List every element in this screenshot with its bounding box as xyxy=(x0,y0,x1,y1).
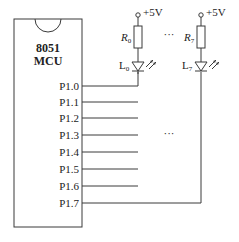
wire-p1-0 xyxy=(82,72,138,86)
led-branch-7: +5V R7 L7 xyxy=(182,6,226,73)
chip-notch-icon xyxy=(35,19,61,32)
led-label: L0 xyxy=(119,59,130,73)
pin-label-p1-3: P1.3 xyxy=(59,129,79,141)
resistor-icon xyxy=(197,26,205,48)
supply-terminal-icon xyxy=(136,13,140,17)
supply-label: +5V xyxy=(143,6,163,18)
led-icon xyxy=(132,62,144,71)
pin-label-p1-6: P1.6 xyxy=(59,180,79,192)
pin-labels: P1.0 P1.1 P1.2 P1.3 P1.4 P1.5 P1.6 P1.7 xyxy=(59,80,79,209)
pin-label-p1-2: P1.2 xyxy=(59,112,79,124)
led-branch-0: +5V R0 L0 xyxy=(119,6,163,74)
resistor-label: R7 xyxy=(183,31,195,45)
pin-label-p1-4: P1.4 xyxy=(59,146,79,158)
circuit-diagram: 8051 MCU P1.0 P1.1 P1.2 P1.3 P1.4 P1.5 P… xyxy=(0,0,239,242)
pin-label-p1-1: P1.1 xyxy=(59,96,79,108)
pin-label-p1-5: P1.5 xyxy=(59,163,79,175)
resistor-label: R0 xyxy=(120,31,132,45)
pin-label-p1-0: P1.0 xyxy=(59,80,79,92)
wire-p1-7 xyxy=(82,72,201,203)
led-icon xyxy=(195,62,207,71)
pin-label-p1-7: P1.7 xyxy=(59,197,79,209)
resistor-icon xyxy=(134,26,142,48)
ellipsis-middle: ··· xyxy=(164,127,175,139)
supply-terminal-icon xyxy=(199,13,203,17)
supply-label: +5V xyxy=(206,6,226,18)
pin-wires xyxy=(82,72,201,203)
ellipsis-top: ··· xyxy=(164,28,175,40)
chip-label-model: 8051 xyxy=(36,41,60,55)
led-label: L7 xyxy=(182,59,193,73)
chip-label-type: MCU xyxy=(34,54,63,68)
